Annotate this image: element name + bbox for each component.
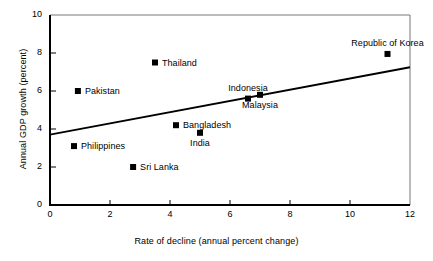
x-tick-label: 10: [340, 209, 360, 219]
point-label-republic-of-korea: Republic of Korea: [351, 38, 423, 48]
y-tick-label: 10: [20, 9, 42, 19]
y-tick-label: 0: [20, 199, 42, 209]
point-label-india: India: [190, 138, 210, 148]
point-label-bangladesh: Bangladesh: [183, 120, 231, 130]
point-label-malaysia: Malaysia: [242, 100, 278, 110]
point-label-indonesia: Indonesia: [228, 83, 267, 93]
x-tick-label: 12: [400, 209, 420, 219]
data-point-marker[interactable]: [152, 60, 158, 66]
point-label-sri-lanka: Sri Lanka: [140, 162, 178, 172]
x-tick-label: 6: [220, 209, 240, 219]
point-label-philippines: Philippines: [81, 141, 125, 151]
data-point-marker[interactable]: [130, 164, 136, 170]
data-point-marker[interactable]: [385, 51, 391, 57]
y-tick-label: 6: [20, 85, 42, 95]
data-point-marker[interactable]: [173, 122, 179, 128]
data-point-marker[interactable]: [75, 88, 81, 94]
point-label-thailand: Thailand: [162, 58, 197, 68]
scatter-chart-figure: Rate of decline (annual percent change) …: [0, 0, 433, 261]
data-point-marker[interactable]: [257, 92, 263, 98]
y-tick-label: 8: [20, 47, 42, 57]
y-tick-label: 2: [20, 161, 42, 171]
x-tick-label: 2: [100, 209, 120, 219]
x-tick-label: 0: [40, 209, 60, 219]
x-tick-label: 8: [280, 209, 300, 219]
data-point-marker[interactable]: [71, 143, 77, 149]
y-tick-label: 4: [20, 123, 42, 133]
y-axis-title: Annual GDP growth (percent): [18, 14, 28, 204]
data-point-marker[interactable]: [197, 130, 203, 136]
x-axis-title: Rate of decline (annual percent change): [0, 236, 433, 246]
x-tick-label: 4: [160, 209, 180, 219]
point-label-pakistan: Pakistan: [85, 86, 120, 96]
